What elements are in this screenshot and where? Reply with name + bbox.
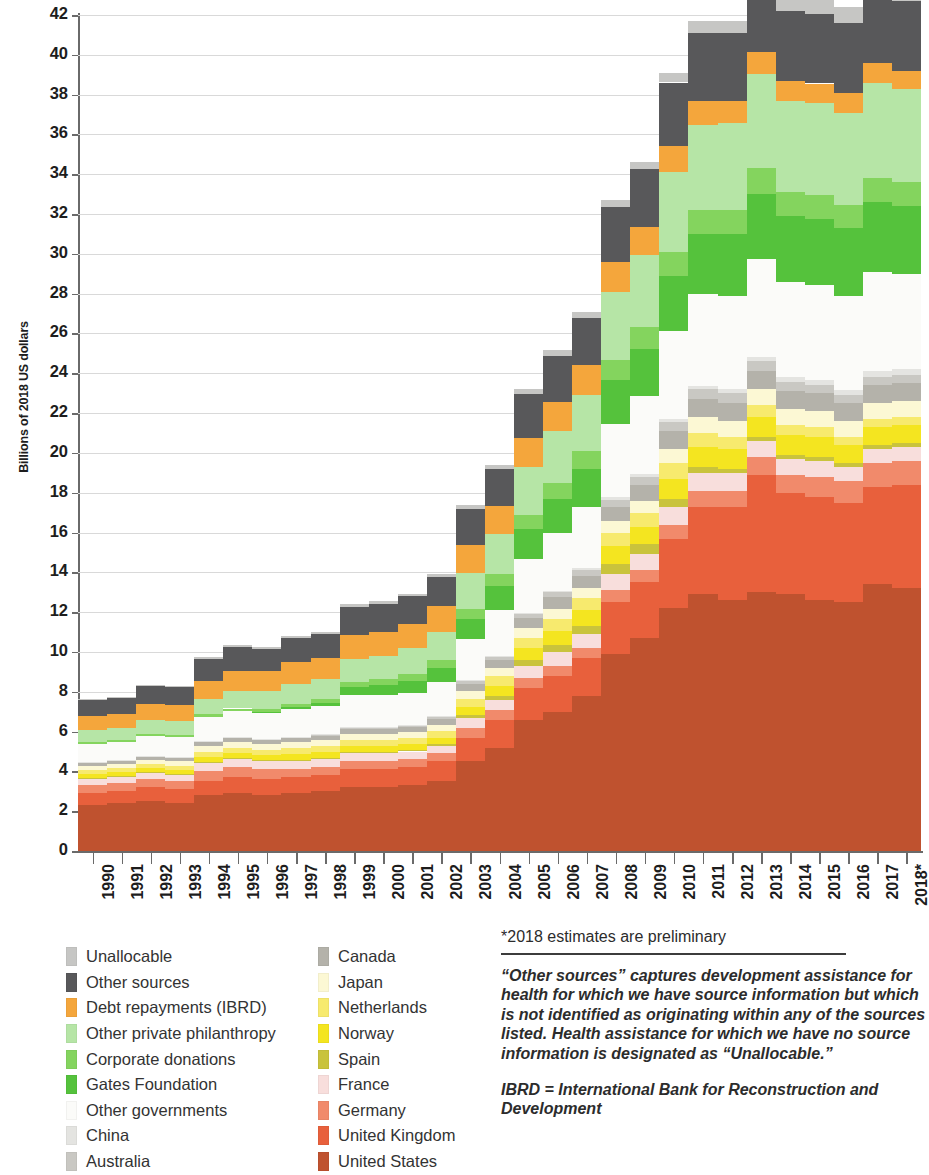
stack-segment bbox=[165, 705, 194, 721]
stack-segment bbox=[863, 449, 892, 463]
legend-item[interactable]: United States bbox=[318, 1149, 498, 1175]
stack-segment bbox=[688, 417, 717, 433]
stack-segment bbox=[456, 761, 485, 851]
stack-segment bbox=[572, 696, 601, 851]
legend-item[interactable]: Corporate donations bbox=[66, 1046, 316, 1072]
stack-segment bbox=[601, 200, 630, 207]
legend-item-label: Canada bbox=[338, 947, 396, 966]
stacked-bar-column bbox=[543, 15, 572, 851]
stack-segment bbox=[572, 626, 601, 634]
stack-segment bbox=[572, 469, 601, 507]
y-tick-label: 4 bbox=[24, 760, 68, 779]
legend-item[interactable]: France bbox=[318, 1072, 498, 1098]
stack-segment bbox=[834, 205, 863, 229]
legend-item[interactable]: Netherlands bbox=[318, 995, 498, 1021]
stack-segment bbox=[543, 591, 572, 593]
stack-segment bbox=[863, 427, 892, 445]
stack-segment bbox=[543, 619, 572, 631]
stack-segment bbox=[252, 779, 281, 795]
stack-segment bbox=[892, 425, 921, 443]
stack-segment bbox=[601, 507, 630, 521]
stack-segment bbox=[427, 731, 456, 738]
legend-item[interactable]: China bbox=[66, 1123, 316, 1149]
stack-segment bbox=[514, 720, 543, 851]
stack-segment bbox=[747, 74, 776, 168]
legend-item[interactable]: Japan bbox=[318, 970, 498, 996]
stack-segment bbox=[688, 210, 717, 234]
stack-segment bbox=[78, 770, 107, 774]
stack-segment bbox=[688, 447, 717, 467]
stack-segment bbox=[369, 734, 398, 740]
stack-segment bbox=[311, 706, 340, 734]
y-tick-label: 30 bbox=[24, 243, 68, 262]
stack-segment bbox=[311, 736, 340, 740]
legend-item[interactable]: Other private philanthropy bbox=[66, 1021, 316, 1047]
x-tick-label: 2000 bbox=[390, 864, 408, 934]
legend-item[interactable]: Other sources bbox=[66, 970, 316, 996]
stack-segment bbox=[543, 645, 572, 652]
stack-segment bbox=[136, 760, 165, 764]
stack-segment bbox=[456, 619, 485, 639]
stack-segment bbox=[107, 764, 136, 768]
stack-segment bbox=[630, 169, 659, 227]
stack-segment bbox=[688, 389, 717, 399]
stack-segment bbox=[398, 693, 427, 725]
legend-item[interactable]: Other governments bbox=[66, 1098, 316, 1124]
stack-segment bbox=[136, 686, 165, 704]
stack-segment bbox=[456, 609, 485, 619]
stack-segment bbox=[892, 383, 921, 401]
legend-item[interactable]: Canada bbox=[318, 944, 498, 970]
stack-segment bbox=[194, 763, 223, 771]
stack-segment bbox=[572, 568, 601, 570]
legend-swatch-icon bbox=[318, 1075, 329, 1094]
stack-segment bbox=[863, 377, 892, 385]
stack-segment bbox=[136, 773, 165, 779]
stack-segment bbox=[514, 660, 543, 666]
stack-segment bbox=[659, 146, 688, 172]
stack-segment bbox=[659, 73, 688, 83]
stack-segment bbox=[688, 386, 717, 390]
stack-segment bbox=[572, 588, 601, 598]
stack-segment bbox=[369, 601, 398, 603]
stack-segment bbox=[863, 487, 892, 585]
x-tick-mark bbox=[354, 853, 356, 864]
x-tick-mark bbox=[703, 853, 705, 864]
legend-item[interactable]: Debt repayments (IBRD) bbox=[66, 995, 316, 1021]
legend-item[interactable]: Australia bbox=[66, 1149, 316, 1175]
stack-segment bbox=[398, 752, 427, 760]
stack-segment bbox=[107, 760, 136, 761]
stack-segment bbox=[892, 0, 921, 1]
y-tick-label: 2 bbox=[24, 800, 68, 819]
stack-segment bbox=[311, 767, 340, 775]
x-tick-mark bbox=[616, 853, 618, 864]
x-tick-mark bbox=[500, 853, 502, 864]
stack-segment bbox=[78, 793, 107, 805]
stack-segment bbox=[456, 691, 485, 699]
stack-segment bbox=[194, 681, 223, 699]
stack-segment bbox=[281, 777, 310, 793]
legend-item[interactable]: United Kingdom bbox=[318, 1123, 498, 1149]
stack-segment bbox=[107, 772, 136, 776]
y-tick-mark bbox=[72, 851, 78, 853]
stack-segment bbox=[776, 282, 805, 378]
stack-segment bbox=[456, 545, 485, 573]
stack-segment bbox=[543, 431, 572, 483]
stack-segment bbox=[776, 425, 805, 435]
legend-item[interactable]: Germany bbox=[318, 1098, 498, 1124]
legend-item[interactable]: Spain bbox=[318, 1046, 498, 1072]
x-tick-label: 2002 bbox=[448, 864, 466, 934]
stack-segment bbox=[630, 582, 659, 638]
legend-item[interactable]: Unallocable bbox=[66, 944, 316, 970]
stack-segment bbox=[427, 632, 456, 660]
stack-segment bbox=[311, 740, 340, 746]
stack-segment bbox=[572, 658, 601, 696]
stack-segment bbox=[311, 752, 340, 758]
legend-item[interactable]: Norway bbox=[318, 1021, 498, 1047]
stack-segment bbox=[892, 1, 921, 71]
legend-item[interactable]: Gates Foundation bbox=[66, 1072, 316, 1098]
stack-segment bbox=[747, 371, 776, 389]
stacked-bar-column bbox=[340, 15, 369, 851]
stack-segment bbox=[427, 574, 456, 577]
stacked-bar-column bbox=[78, 15, 107, 851]
x-tick-label: 2007 bbox=[594, 864, 612, 934]
